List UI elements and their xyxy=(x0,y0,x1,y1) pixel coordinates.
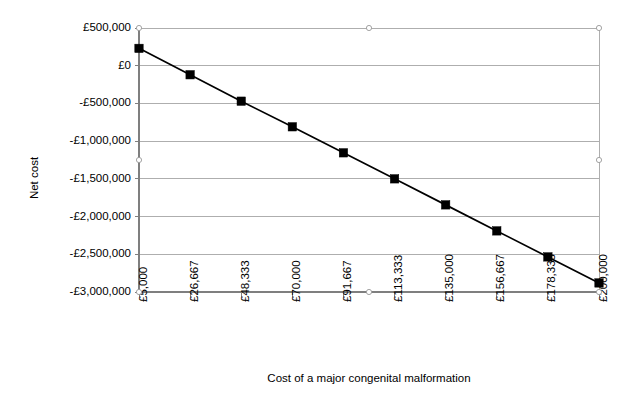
data-point-marker[interactable] xyxy=(493,227,501,235)
chart-container: £500,000£0-£500,000-£1,000,000-£1,500,00… xyxy=(0,0,629,405)
x-axis-tick-label: £113,333 xyxy=(392,255,404,302)
x-axis-tick-label: £91,667 xyxy=(341,260,353,302)
y-axis-ticks: £500,000£0-£500,000-£1,000,000-£1,500,00… xyxy=(70,21,139,297)
selection-handle-middle-right[interactable] xyxy=(596,157,601,162)
data-point-marker[interactable] xyxy=(441,201,449,209)
x-axis-tick-label: £156,667 xyxy=(494,254,506,302)
y-axis-tick-label: -£500,000 xyxy=(79,96,131,108)
data-point-marker[interactable] xyxy=(186,71,194,79)
data-point-marker[interactable] xyxy=(288,123,296,131)
selection-handle-bottom-center[interactable] xyxy=(366,289,371,294)
y-axis-tick-label: -£1,500,000 xyxy=(70,172,131,184)
x-axis-tick-label: £26,667 xyxy=(188,260,200,302)
x-axis-tick-label: £70,000 xyxy=(290,260,302,302)
y-axis-tick-label: -£2,000,000 xyxy=(70,210,131,222)
x-axis-tick-label: £135,000 xyxy=(443,254,455,302)
y-axis-tick-label: -£3,000,000 xyxy=(70,285,131,297)
y-axis-title: Net cost xyxy=(28,156,40,199)
x-axis-tick-label: £5,000 xyxy=(137,267,149,302)
data-point-marker[interactable] xyxy=(390,175,398,183)
y-axis-tick-label: -£1,000,000 xyxy=(70,134,131,146)
selection-handle-top-left[interactable] xyxy=(136,25,141,30)
x-axis-title: Cost of a major congenital malformation xyxy=(267,372,470,384)
data-point-marker[interactable] xyxy=(339,149,347,157)
y-axis-tick-label: £0 xyxy=(118,59,131,71)
y-axis-tick-label: £500,000 xyxy=(83,21,131,33)
x-axis-tick-label: £178,333 xyxy=(545,254,557,302)
x-axis-tick-label: £48,333 xyxy=(239,260,251,302)
selection-handle-bottom-right[interactable] xyxy=(596,289,601,294)
selection-handle-middle-left[interactable] xyxy=(136,157,141,162)
plot-area-background xyxy=(139,28,599,292)
data-point-marker[interactable] xyxy=(135,44,143,52)
selection-handle-top-right[interactable] xyxy=(596,25,601,30)
net-cost-line-chart: £500,000£0-£500,000-£1,000,000-£1,500,00… xyxy=(0,0,629,405)
y-axis-tick-label: -£2,500,000 xyxy=(70,247,131,259)
selection-handle-top-center[interactable] xyxy=(366,25,371,30)
selection-handle-bottom-left[interactable] xyxy=(136,289,141,294)
data-point-marker[interactable] xyxy=(237,97,245,105)
